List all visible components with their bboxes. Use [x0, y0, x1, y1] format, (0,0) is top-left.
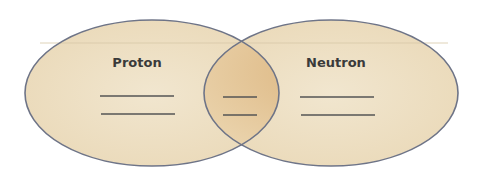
- neutron-label: Neutron: [306, 55, 366, 70]
- proton-label: Proton: [112, 55, 161, 70]
- venn-diagram: Proton Neutron: [0, 0, 482, 177]
